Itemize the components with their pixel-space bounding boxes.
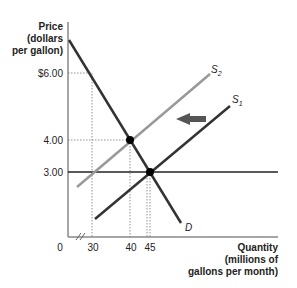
x-axis-title: Quantity bbox=[237, 242, 278, 253]
y-axis-title: (dollars bbox=[27, 33, 64, 44]
s1-label: S1 bbox=[232, 94, 243, 107]
y-axis-title: Price bbox=[39, 21, 64, 32]
x-axis-title: gallons per month) bbox=[188, 266, 278, 277]
equilibrium-point bbox=[126, 136, 134, 144]
x-tick: 0 bbox=[57, 242, 63, 253]
x-tick: 45 bbox=[144, 242, 156, 253]
shift-arrow-icon bbox=[176, 113, 206, 125]
demand-curve bbox=[69, 40, 181, 223]
supply-curve-s2 bbox=[77, 74, 210, 187]
y-tick: 4.00 bbox=[44, 135, 64, 146]
x-axis-title: (millions of bbox=[225, 254, 279, 265]
guide-lines bbox=[68, 73, 150, 237]
y-tick: 3.00 bbox=[44, 167, 64, 178]
y-axis-title: per gallon) bbox=[12, 45, 63, 56]
y-tick: $6.00 bbox=[38, 68, 63, 79]
supply-demand-chart: S2 S1 D Price (dollars per gallon) $6.00… bbox=[0, 0, 297, 288]
x-tick: 40 bbox=[125, 242, 137, 253]
d-label: D bbox=[185, 222, 192, 233]
x-tick: 30 bbox=[87, 242, 99, 253]
supply-curve-s1 bbox=[95, 106, 230, 219]
s2-label: S2 bbox=[211, 64, 222, 77]
equilibrium-point bbox=[146, 168, 154, 176]
